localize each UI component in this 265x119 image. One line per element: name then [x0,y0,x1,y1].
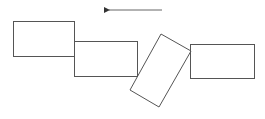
block-2 [75,42,138,77]
block-3-tilted [130,34,191,107]
block-4 [191,45,255,79]
block-1 [14,22,75,57]
diagram-canvas [0,0,265,119]
